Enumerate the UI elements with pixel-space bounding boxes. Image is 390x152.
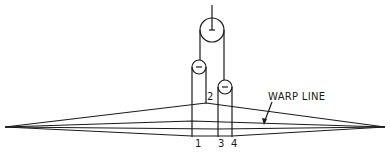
warp-top-shed <box>5 103 385 127</box>
label-3: 3 <box>218 139 224 149</box>
warp-line-label: WARP LINE <box>268 92 325 102</box>
label-2: 2 <box>207 92 213 102</box>
shedding-diagram <box>0 0 390 152</box>
warp-line-level <box>5 127 385 129</box>
label-4: 4 <box>231 139 237 149</box>
arrow-head-icon <box>262 118 267 125</box>
label-1: 1 <box>195 139 201 149</box>
warp-line-middle <box>5 121 385 127</box>
